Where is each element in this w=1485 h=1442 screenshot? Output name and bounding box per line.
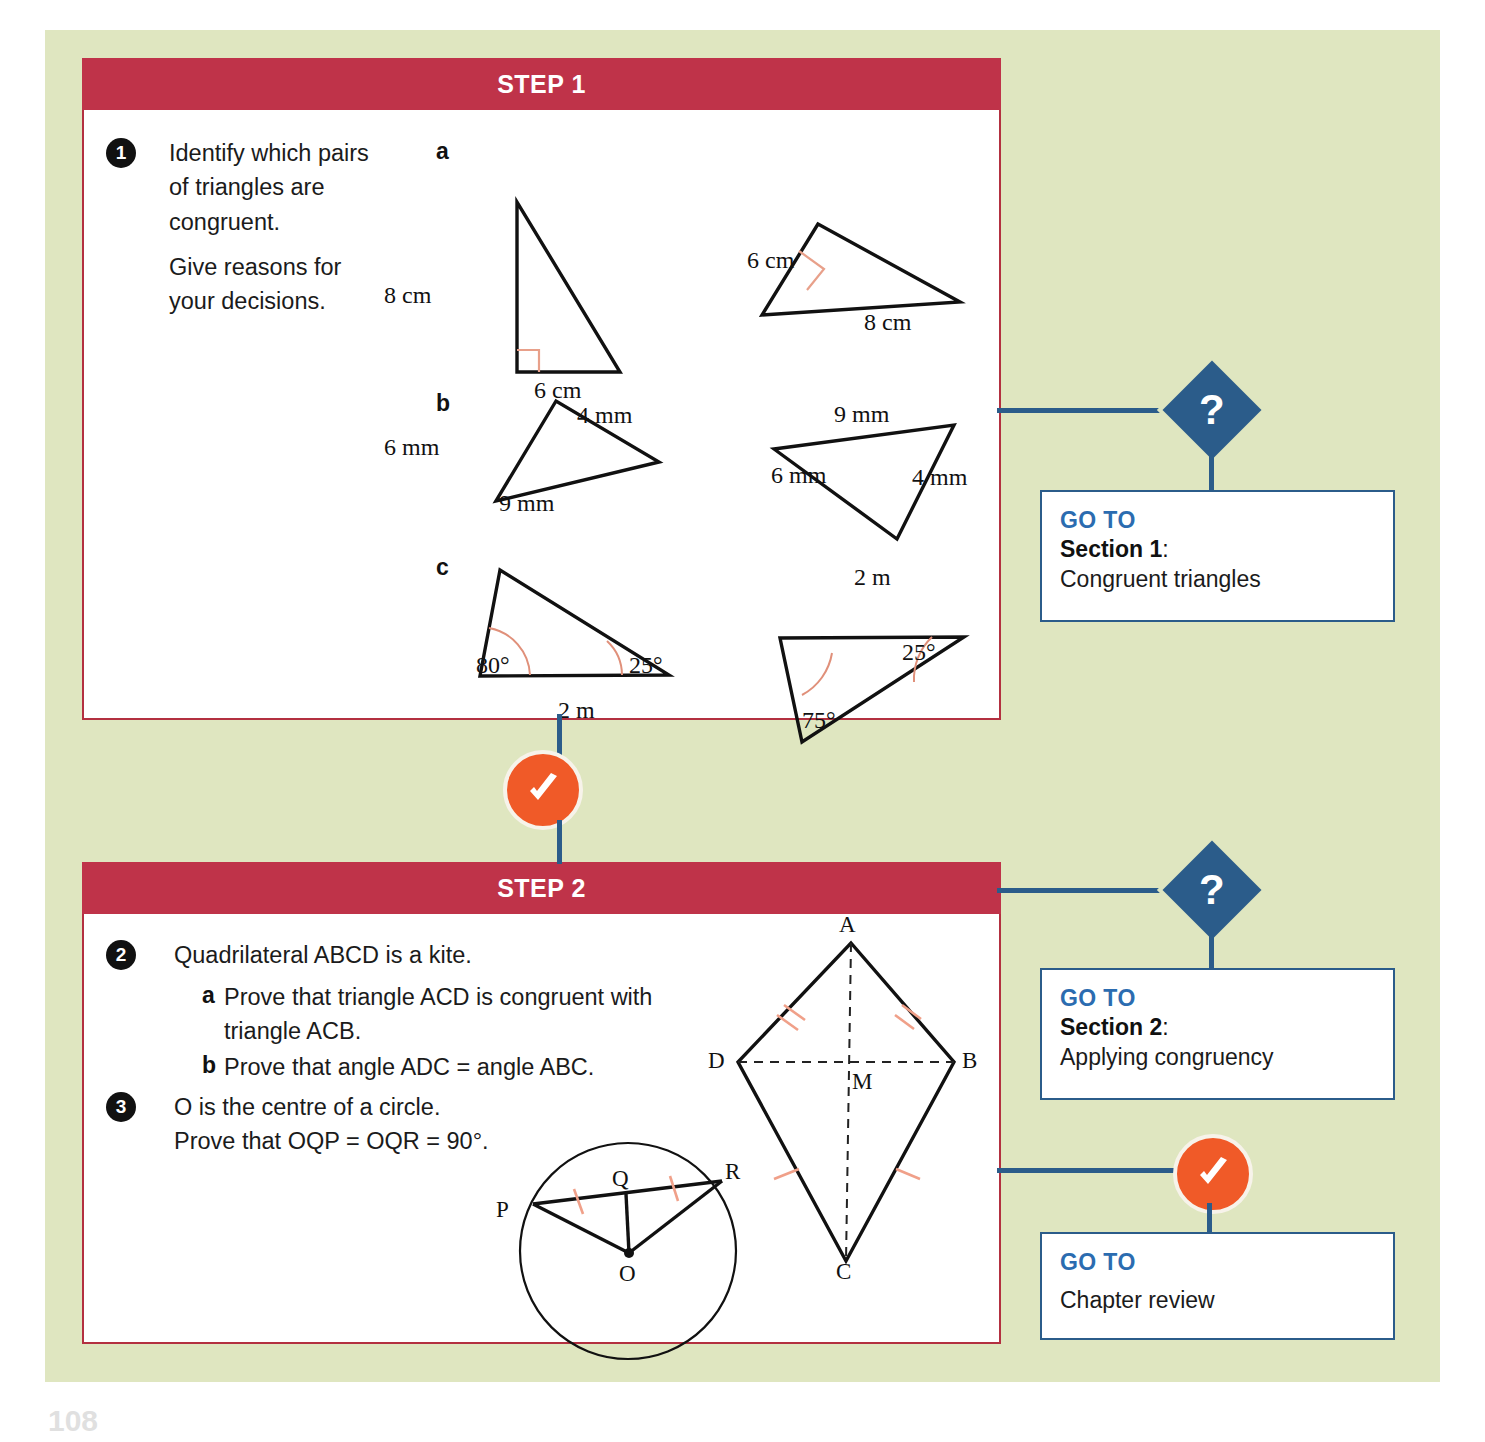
kite-label-C: C: [836, 1259, 851, 1285]
figure-c-right-triangle: [724, 552, 1064, 752]
figure-a-left-label-8cm: 8 cm: [384, 282, 431, 309]
goto-section-2-colon: :: [1162, 1014, 1168, 1040]
connector-tick1-to-step2: [557, 820, 562, 864]
figure-b-right-label-6mm: 6 mm: [771, 462, 826, 489]
check-icon: [521, 768, 565, 812]
connector-step2-to-diamond2: [997, 888, 1182, 893]
goto-section-2-name: Section 2: [1060, 1014, 1162, 1040]
figure-b-left-label-4mm: 4 mm: [577, 402, 632, 429]
q1-line-4: Give reasons for: [169, 250, 469, 284]
step-2-header: STEP 2: [82, 862, 1001, 914]
goto-box-section-2[interactable]: GO TO Section 2: Applying congruency: [1040, 968, 1395, 1100]
q1-line-1: Identify which pairs: [169, 136, 469, 170]
step-2-panel: STEP 2 2 Quadrilateral ABCD is a kite. a…: [82, 862, 1001, 1344]
tick-circle-1[interactable]: [503, 750, 583, 830]
step-1-panel: STEP 1 1 Identify which pairs of triangl…: [82, 58, 1001, 720]
kite-label-A: A: [839, 912, 856, 938]
question-number-3: 3: [106, 1092, 136, 1122]
figure-c-left-label-2m: 2 m: [558, 697, 595, 724]
connector-step2-to-tick2: [997, 1168, 1180, 1173]
textbook-page: STEP 1 1 Identify which pairs of triangl…: [0, 0, 1485, 1442]
step-1-body: 1 Identify which pairs of triangles are …: [84, 112, 999, 718]
check-icon-2: [1191, 1152, 1235, 1196]
part-letter-a: a: [436, 138, 449, 165]
goto-label-1: GO TO: [1060, 506, 1375, 535]
figure-b-right-label-9mm: 9 mm: [834, 401, 889, 428]
goto-section-1-name: Section 1: [1060, 536, 1162, 562]
circle-label-O: O: [619, 1261, 636, 1287]
q1-line-2: of triangles are: [169, 170, 469, 204]
question-mark-icon-2: ?: [1199, 869, 1225, 911]
goto-section-2: Section 2:: [1060, 1013, 1375, 1043]
goto-section-1: Section 1:: [1060, 535, 1375, 565]
figure-c-right-label-2m: 2 m: [854, 564, 891, 591]
step-2-body: 2 Quadrilateral ABCD is a kite. a Prove …: [84, 916, 999, 1342]
goto-label-3: GO TO: [1060, 1248, 1375, 1277]
figure-c-right-label-25deg: 25°: [902, 639, 936, 666]
figure-kite-diagram: [696, 926, 1016, 1326]
figure-b-left-label-6mm: 6 mm: [384, 434, 439, 461]
question-number-1: 1: [106, 138, 136, 168]
kite-label-M: M: [852, 1069, 872, 1095]
figure-a-left-triangle: [444, 172, 684, 402]
q1-spacer: [169, 239, 469, 250]
kite-label-D: D: [708, 1048, 725, 1074]
question-2-text: Quadrilateral ABCD is a kite.: [174, 938, 472, 972]
q2-part-letter-b: b: [202, 1052, 216, 1079]
figure-c-left-label-80deg: 80°: [476, 652, 510, 679]
figure-b-right-label-4mm: 4 mm: [912, 464, 967, 491]
kite-label-B: B: [962, 1048, 977, 1074]
tick-circle-2[interactable]: [1173, 1134, 1253, 1214]
figure-c-right-label-75deg: 75°: [802, 707, 836, 734]
connector-diamond1-to-goto1: [1209, 440, 1214, 495]
figure-b-left-label-9mm: 9 mm: [499, 490, 554, 517]
circle-label-Q: Q: [612, 1166, 629, 1192]
goto-desc-3: Chapter review: [1060, 1286, 1375, 1316]
goto-box-chapter-review[interactable]: GO TO Chapter review: [1040, 1232, 1395, 1340]
connector-step1-to-diamond1: [997, 408, 1182, 413]
goto-box-section-1[interactable]: GO TO Section 1: Congruent triangles: [1040, 490, 1395, 622]
figure-a-right-label-8cm: 8 cm: [864, 309, 911, 336]
q2-part-letter-a: a: [202, 982, 215, 1009]
q3-line-1: O is the centre of a circle.: [174, 1090, 624, 1124]
goto-desc-1: Congruent triangles: [1060, 565, 1375, 595]
question-mark-icon: ?: [1199, 389, 1225, 431]
circle-label-P: P: [496, 1197, 509, 1223]
goto-section-1-colon: :: [1162, 536, 1168, 562]
figure-a-right-triangle: [724, 172, 1044, 402]
step-1-header: STEP 1: [82, 58, 1001, 110]
goto-desc-2: Applying congruency: [1060, 1043, 1375, 1073]
q1-line-3: congruent.: [169, 205, 469, 239]
question-number-2: 2: [106, 940, 136, 970]
goto-label-2: GO TO: [1060, 984, 1375, 1013]
figure-a-right-label-6cm: 6 cm: [747, 247, 794, 274]
figure-c-left-label-25deg: 25°: [629, 652, 663, 679]
page-number: 108: [48, 1404, 98, 1438]
